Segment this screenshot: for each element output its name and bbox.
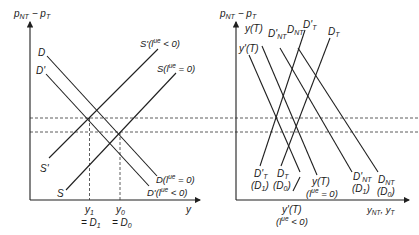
- label-top-yT-prime: y'(T): [238, 43, 259, 54]
- supply-curve-S-prime: [49, 49, 158, 158]
- label-top-D-NT-prime: D'NT: [268, 28, 287, 40]
- label-bottom-D-T-prime: D'T: [254, 168, 268, 180]
- two-panel-supply-demand-diagram: pNT − pT y D D' S' S S'(lue < 0) S(lue =…: [0, 0, 419, 235]
- left-panel: pNT − pT y D D' S' S S'(lue < 0) S(lue =…: [13, 8, 419, 229]
- tick-label-y1-equals: = D1: [81, 217, 101, 229]
- label-bottom-D-NT-prime-case: (D1): [352, 183, 370, 195]
- tick-label-y0-equals: = D0: [112, 217, 132, 229]
- label-bottom-yT-prime-case: (lue < 0): [276, 215, 308, 227]
- label-S-prime-start: S': [40, 163, 50, 174]
- label-bottom-D-T-prime-case: (D1): [251, 180, 269, 192]
- left-x-axis-label: y: [185, 204, 192, 215]
- nontraded-demand-D-NT: [298, 48, 378, 172]
- label-D-end: D(lue = 0): [156, 173, 195, 185]
- tick-label-y0: y0: [115, 204, 125, 216]
- label-D: D: [38, 47, 45, 58]
- label-top-yT: y(T): [244, 23, 263, 34]
- label-top-D-T: DT: [328, 26, 340, 38]
- label-D-prime: D': [36, 65, 46, 76]
- label-D-prime-end: D'(lue < 0): [147, 186, 187, 198]
- label-top-D-T-prime: D'T: [303, 19, 317, 31]
- right-panel: pNT − pT yNT, yT y(T) y'(T) D'NT DNT D'T…: [219, 8, 409, 227]
- traded-demand-D-T-prime: [260, 30, 305, 166]
- label-bottom-D-T: DT: [277, 168, 289, 180]
- label-bottom-D-NT-case: (D0): [377, 186, 395, 198]
- left-y-axis-label: pNT − pT: [13, 8, 51, 20]
- output-curve-yT-prime-leader: [293, 177, 300, 191]
- label-S-start: S: [57, 188, 64, 199]
- right-x-axis-label: yNT, yT: [366, 204, 395, 216]
- demand-curve-D-prime: [46, 74, 149, 186]
- label-top-D-NT: DNT: [287, 24, 304, 36]
- label-bottom-yT-case: (lue = 0): [306, 187, 338, 199]
- nontraded-demand-D-NT-prime: [280, 48, 352, 172]
- output-curve-yT-prime: [249, 55, 300, 172]
- label-S-end: S(lue = 0): [157, 62, 195, 74]
- label-bottom-yT: y(T): [311, 176, 330, 187]
- tick-label-y1: y1: [84, 204, 94, 216]
- supply-curve-S: [66, 73, 176, 190]
- label-bottom-D-NT-prime: D'NT: [353, 171, 372, 183]
- demand-curve-D: [47, 56, 157, 176]
- label-S-prime-end: S'(lue < 0): [140, 37, 180, 49]
- label-bottom-D-T-case: (D0): [273, 180, 291, 192]
- label-bottom-yT-prime: y'(T): [281, 204, 302, 215]
- label-bottom-D-NT: DNT: [378, 174, 395, 186]
- right-y-axis-label: pNT − pT: [219, 8, 257, 20]
